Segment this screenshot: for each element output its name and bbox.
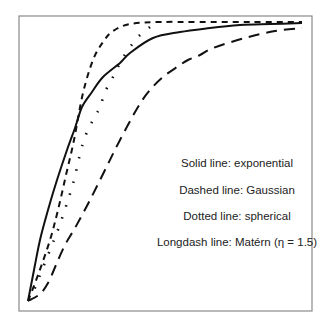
variogram-chart: Solid line: exponential Dashed line: Gau… (0, 0, 327, 329)
legend-matern: Longdash line: Matérn (η = 1.5) (157, 236, 317, 248)
legend-exponential: Solid line: exponential (181, 157, 293, 169)
spherical-curve (30, 27, 150, 300)
legend: Solid line: exponential Dashed line: Gau… (157, 157, 317, 248)
legend-spherical: Dotted line: spherical (183, 210, 290, 222)
legend-gaussian: Dashed line: Gaussian (179, 184, 295, 196)
